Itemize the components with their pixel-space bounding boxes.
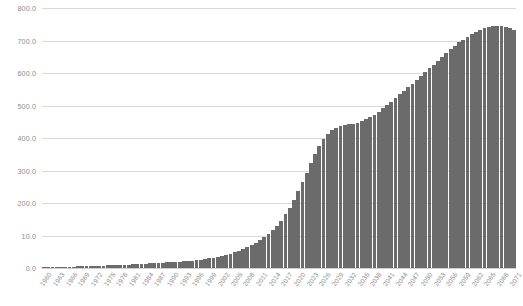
bar [301, 182, 305, 268]
bar [131, 264, 135, 268]
y-axis-tick-label: 800.0 [18, 4, 37, 13]
bar [309, 163, 313, 268]
bar [46, 267, 50, 268]
bar [317, 146, 321, 268]
x-axis-tick-label: 2038 [369, 271, 383, 287]
bar [504, 27, 508, 268]
bar [157, 263, 161, 268]
bar [148, 263, 152, 268]
bar [377, 112, 381, 268]
bar [398, 94, 402, 268]
bar [364, 119, 368, 268]
x-axis-tick-label: 2047 [407, 271, 421, 287]
bar [339, 126, 343, 268]
bar [118, 265, 122, 268]
bar [491, 26, 495, 268]
x-axis-tick-label: 1963 [51, 271, 65, 287]
bar [444, 53, 448, 268]
bar [224, 255, 228, 268]
bar [487, 27, 491, 268]
bar [402, 91, 406, 268]
bar [72, 267, 76, 268]
x-axis-tick-label: 1966 [64, 271, 78, 287]
bar [334, 128, 338, 268]
x-axis-tick-label: 1972 [89, 271, 103, 287]
x-axis-tick-label: 2026 [318, 271, 332, 287]
bar [271, 230, 275, 268]
bar [330, 130, 334, 268]
bar [347, 124, 351, 268]
x-axis-tick-label: 2005 [229, 271, 243, 287]
bar [466, 37, 470, 268]
bar [97, 266, 101, 268]
x-axis-tick-label: 1978 [115, 271, 129, 287]
bar [55, 267, 59, 268]
bar [351, 124, 355, 268]
x-axis-tick-label: 2002 [216, 271, 230, 287]
bar [275, 226, 279, 268]
bar [258, 240, 262, 268]
bar [140, 264, 144, 268]
bar [165, 262, 169, 268]
bar [220, 256, 224, 268]
x-axis-tick-label: 2020 [292, 271, 306, 287]
bar [394, 98, 398, 268]
bar [182, 261, 186, 268]
bar [229, 254, 233, 268]
bar [360, 121, 364, 268]
bar [356, 123, 360, 268]
y-axis-tick-label: 500.0 [18, 101, 37, 110]
x-axis-tick-label: 2008 [242, 271, 256, 287]
bar [152, 263, 156, 268]
bar [457, 42, 461, 268]
bar [80, 266, 84, 268]
bar [254, 243, 258, 268]
y-axis-tick-label: 0.0 [26, 264, 36, 273]
bar [279, 221, 283, 268]
y-axis-tick-label: 200.0 [18, 199, 37, 208]
x-axis-tick-label: 2056 [445, 271, 459, 287]
x-axis-tick-label: 1999 [204, 271, 218, 287]
bar [190, 261, 194, 268]
y-axis-tick-label: 600.0 [18, 69, 37, 78]
bar [195, 260, 199, 268]
x-axis-tick-label: 2032 [343, 271, 357, 287]
bar [432, 65, 436, 268]
y-axis-tick-label: 400.0 [18, 134, 37, 143]
x-axis-tick-label: 1969 [77, 271, 91, 287]
y-axis-tick-label: 300.0 [18, 166, 37, 175]
bar [262, 237, 266, 268]
bar [415, 80, 419, 268]
bar [199, 260, 203, 268]
bar [178, 262, 182, 269]
bar [292, 200, 296, 268]
bar [470, 34, 474, 268]
bar [241, 249, 245, 268]
x-axis-tick-label: 1975 [102, 271, 116, 287]
plot-area [42, 8, 516, 268]
bar [233, 252, 237, 268]
x-axis-tick-label: 2041 [381, 271, 395, 287]
bar [368, 117, 372, 268]
bar [216, 257, 220, 268]
x-axis-tick-label: 2044 [394, 271, 408, 287]
x-axis-tick-label: 2071 [508, 271, 522, 287]
x-axis-tick-label: 2014 [267, 271, 281, 287]
bar [428, 68, 432, 268]
bar [135, 264, 139, 268]
x-axis-tick-label: 2062 [470, 271, 484, 287]
bar [419, 76, 423, 268]
bar [267, 234, 271, 268]
bar [381, 108, 385, 268]
bar [483, 28, 487, 268]
bar [461, 40, 465, 268]
bar [508, 28, 512, 268]
x-axis-tick-label: 2068 [496, 271, 510, 287]
bar [373, 115, 377, 268]
bar [51, 267, 55, 268]
bar [237, 251, 241, 268]
bar [63, 267, 67, 268]
bar [144, 264, 148, 268]
bar [76, 266, 80, 268]
bar [110, 265, 114, 268]
